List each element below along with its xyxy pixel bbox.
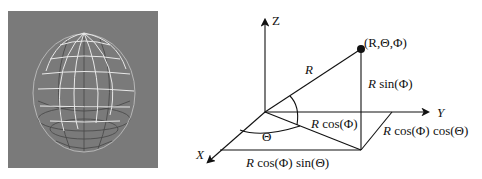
height-label: R sin(Φ) <box>368 77 413 90</box>
phi-arc <box>290 96 298 125</box>
radius-label: R <box>305 63 313 76</box>
point-label: (R,Θ,Φ) <box>364 36 407 49</box>
projection-label: R cos(Φ) <box>311 117 358 130</box>
theta-label: Θ <box>262 130 271 143</box>
x-axis-label: X <box>196 148 204 161</box>
x-component-label: R cos(Φ) sin(Θ) <box>246 156 329 169</box>
r-vector <box>265 49 361 112</box>
y-axis-label: Y <box>437 106 444 119</box>
z-axis-label: Z <box>272 14 280 27</box>
y-component-label: R cos(Φ) cos(Θ) <box>383 124 468 137</box>
